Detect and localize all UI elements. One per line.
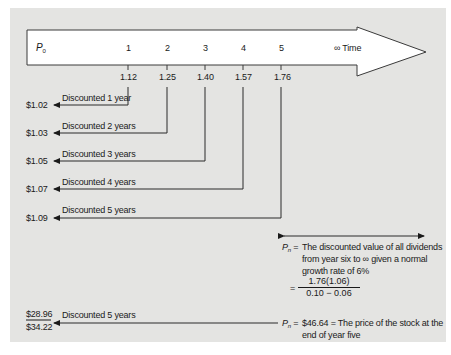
formula-equals: = bbox=[290, 283, 295, 293]
dividend-year-1: 1.12 bbox=[120, 72, 137, 82]
pn-definition-symbol: Pn = bbox=[282, 242, 298, 253]
present-value-4: $1.07 bbox=[26, 184, 48, 194]
time-label: ∞ Time bbox=[334, 43, 361, 53]
discount-label-4: Discounted 4 years bbox=[62, 177, 135, 187]
present-value-5: $1.09 bbox=[26, 213, 48, 223]
pn-result-line-1: $46.64 = The price of the stock at the bbox=[302, 318, 443, 328]
pn-result-symbol: Pn = bbox=[282, 318, 298, 329]
dividend-year-5: 1.76 bbox=[274, 72, 291, 82]
pn-definition-line-3: growth rate of 6% bbox=[302, 266, 369, 276]
start-label: P0 bbox=[36, 42, 46, 54]
formula-denominator: 0.10 − 0.06 bbox=[298, 288, 360, 298]
discount-label-2: Discounted 2 years bbox=[62, 121, 135, 131]
present-value-2: $1.03 bbox=[26, 128, 48, 138]
pn-definition-line-1: The discounted value of all dividends bbox=[302, 242, 442, 252]
final-discount-label: Discounted 5 years bbox=[62, 310, 135, 320]
final-total-value: $34.22 bbox=[26, 322, 52, 332]
present-value-1: $1.02 bbox=[26, 100, 48, 110]
year-label-5: 5 bbox=[279, 43, 284, 53]
dividend-year-3: 1.40 bbox=[197, 72, 214, 82]
year-label-3: 3 bbox=[203, 43, 208, 53]
final-discounted-value: $28.96 bbox=[26, 309, 52, 319]
discount-label-3: Discounted 3 years bbox=[62, 149, 135, 159]
pn-definition-line-2: from year six to ∞ given a normal bbox=[302, 254, 427, 264]
timeline-arrow bbox=[27, 27, 426, 76]
dividend-year-2: 1.25 bbox=[159, 72, 176, 82]
discount-label-1: Discounted 1 year bbox=[62, 93, 131, 103]
growth-formula: 1.76(1.06) 0.10 − 0.06 bbox=[298, 276, 360, 298]
discount-label-5: Discounted 5 years bbox=[62, 205, 135, 215]
year-label-1: 1 bbox=[126, 43, 131, 53]
present-value-3: $1.05 bbox=[26, 156, 48, 166]
year-label-2: 2 bbox=[165, 43, 170, 53]
dividend-year-4: 1.57 bbox=[235, 72, 252, 82]
year-label-4: 4 bbox=[241, 43, 246, 53]
formula-numerator: 1.76(1.06) bbox=[298, 276, 360, 288]
pn-result-line-2: end of year five bbox=[302, 330, 360, 340]
